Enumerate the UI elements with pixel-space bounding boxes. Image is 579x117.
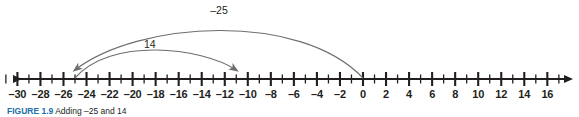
tick-label: 0 [360,88,366,100]
tick-label: –14 [193,88,211,100]
tick-label: –8 [265,88,277,100]
tick-label: –20 [124,88,142,100]
tick-label: 10 [472,88,484,100]
tick-label: –18 [147,88,165,100]
tick-label: 8 [452,88,458,100]
figure-caption-label: FIGURE 1.9 [7,106,53,116]
tick-label: –24 [78,88,96,100]
jump-arcs [75,30,363,78]
tick-label: –10 [239,88,257,100]
tick-label: –2 [334,88,346,100]
number-line-figure: –30–28–26–24–22–20–18–16–14–12–10–8–6–4–… [0,0,579,117]
tick-label: –6 [288,88,300,100]
tick-label: 6 [429,88,435,100]
tick-label: 2 [383,88,389,100]
tick-label: –22 [101,88,119,100]
tick-label: 14 [518,88,530,100]
figure-caption-text: Adding –25 and 14 [55,106,126,116]
tick-label: 4 [406,88,412,100]
tick-label: –26 [55,88,73,100]
tick-label: –12 [216,88,234,100]
tick-label: –16 [170,88,188,100]
tick-label: –4 [311,88,323,100]
tick-label: –28 [32,88,50,100]
jump-minus-25-label: –25 [210,4,228,16]
tick-label: 12 [495,88,507,100]
tick-label: 16 [541,88,553,100]
tick-label: –30 [9,88,27,100]
jump-plus-14-label: 14 [144,38,156,50]
figure-caption: FIGURE 1.9 Adding –25 and 14 [7,106,127,116]
